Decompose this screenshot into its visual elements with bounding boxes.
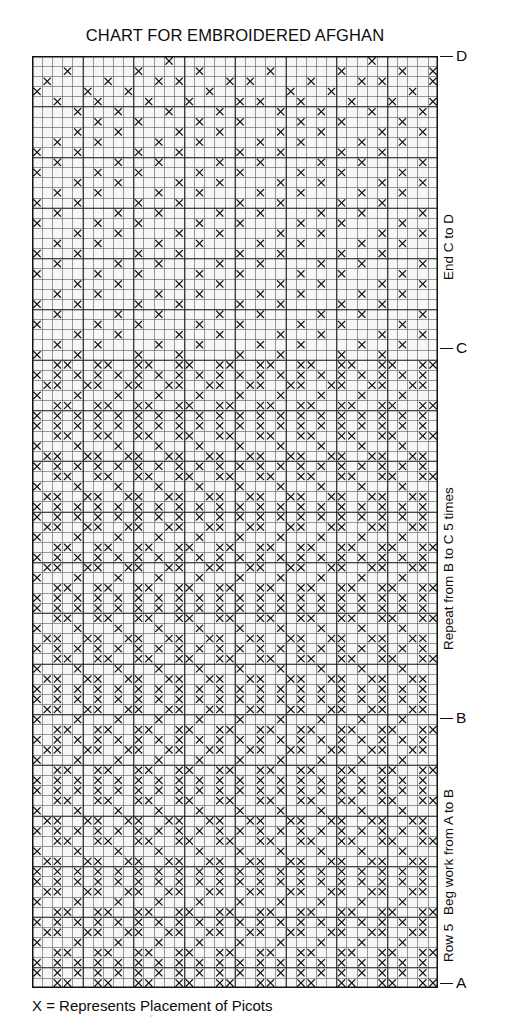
label-row-5: Row 5 (441, 924, 456, 962)
marker-dash-icon (440, 718, 453, 719)
marker-b: B (440, 711, 466, 725)
marker-letter: D (456, 49, 467, 63)
legend-text: X = Represents Placement of Picots (32, 997, 273, 1014)
grid-canvas (32, 56, 438, 988)
label-repeat-b-to-c: Repeat from B to C 5 times (441, 487, 456, 650)
marker-dash-icon (440, 983, 453, 984)
scan-speck (150, 1015, 153, 1017)
marker-letter: B (456, 711, 466, 725)
marker-letter: C (456, 341, 467, 355)
marker-letter: A (456, 976, 466, 990)
marker-a: A (440, 976, 466, 990)
scan-speck (300, 44, 302, 46)
marker-dash-icon (440, 348, 453, 349)
marker-c: C (440, 341, 467, 355)
marker-d: D (440, 49, 467, 63)
label-end-c-to-d: End C to D (441, 214, 456, 280)
label-beg-work-a-to-b: Beg work from A to B (441, 789, 456, 915)
chart-page: CHART FOR EMBROIDERED AFGHAN DCBA End C … (0, 0, 519, 1033)
page-title: CHART FOR EMBROIDERED AFGHAN (32, 26, 438, 45)
marker-dash-icon (440, 56, 453, 57)
embroidery-grid (32, 56, 438, 988)
